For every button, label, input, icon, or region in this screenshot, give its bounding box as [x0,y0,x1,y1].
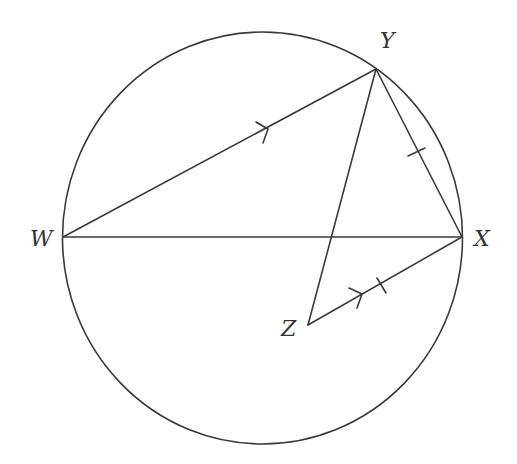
label-x: X [472,226,491,251]
segment-wy [63,69,376,237]
segment-zx [308,237,462,325]
segment-yx [376,69,462,237]
geometry-diagram: W X Y Z [0,0,517,464]
label-y: Y [380,28,397,53]
circle [63,32,463,444]
segment-yz [308,69,376,325]
label-w: W [30,226,55,251]
label-z: Z [280,316,297,341]
